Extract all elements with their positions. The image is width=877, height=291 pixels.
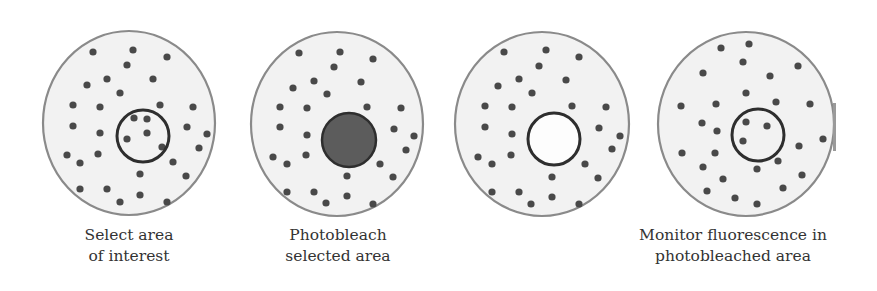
fluorescent-dot [310, 77, 317, 84]
panel-bleached-area [455, 32, 629, 216]
fluorescent-dot [123, 61, 130, 68]
cell-outline [43, 31, 215, 215]
fluorescent-dot [89, 48, 96, 55]
fluorescent-dot [515, 75, 522, 82]
fluorescent-dot [548, 193, 555, 200]
fluorescent-dot [397, 104, 404, 111]
fluorescent-dot [527, 200, 534, 207]
fluorescent-dot [323, 90, 330, 97]
fluorescent-dot [772, 98, 779, 105]
fluorescent-dot [103, 75, 110, 82]
fluorescent-dot [542, 46, 549, 53]
fluorescent-dot [745, 40, 752, 47]
fluorescent-dot [289, 84, 296, 91]
fluorescent-dot [508, 103, 515, 110]
fluorescent-dot [149, 75, 156, 82]
fluorescent-dot [742, 118, 749, 125]
panel-photobleach [251, 32, 423, 216]
fluorescent-dot [136, 170, 143, 177]
fluorescent-dot [508, 130, 515, 137]
fluorescent-dot [713, 127, 720, 134]
fluorescent-dot [310, 188, 317, 195]
fluorescent-dot [753, 200, 760, 207]
fluorescent-dot [123, 135, 130, 142]
fluorescent-dot [83, 81, 90, 88]
fluorescent-dot [96, 129, 103, 136]
fluorescent-dot [143, 115, 150, 122]
label-photobleach-line2: selected area [263, 246, 413, 267]
panel-monitor-fluorescence [658, 32, 834, 216]
fluorescent-dot [322, 199, 329, 206]
fluorescent-dot [594, 174, 601, 181]
edge-mark [833, 103, 836, 151]
fluorescent-dot [677, 102, 684, 109]
fluorescent-dot [63, 151, 70, 158]
fluorescent-dot [156, 101, 163, 108]
label-monitor-fluorescence: Monitor fluorescence in photobleached ar… [608, 225, 858, 267]
fluorescent-dot [143, 129, 150, 136]
fluorescent-dot [753, 165, 760, 172]
fluorescent-dot [488, 188, 495, 195]
fluorescent-dot [581, 160, 588, 167]
fluorescent-dot [302, 151, 309, 158]
fluorescent-dot [389, 173, 396, 180]
label-select-line1: Select area [59, 225, 199, 246]
fluorescent-dot [717, 44, 724, 51]
fluorescent-dot [283, 188, 290, 195]
fluorescent-dot [766, 72, 773, 79]
fluorescent-dot [500, 48, 507, 55]
fluorescent-dot [295, 49, 302, 56]
fluorescent-dot [390, 125, 397, 132]
fluorescent-dot [699, 163, 706, 170]
fluorescent-dot [183, 123, 190, 130]
fluorescent-dot [731, 194, 738, 201]
fluorescent-dot [739, 58, 746, 65]
fluorescent-dot [330, 63, 337, 70]
fluorescent-dot [410, 132, 417, 139]
fluorescent-dot [595, 124, 602, 131]
fluorescent-dot [575, 53, 582, 60]
fluorescent-dot [699, 69, 706, 76]
panel-select-area [43, 31, 215, 215]
fluorescent-dot [719, 175, 726, 182]
fluorescent-dot [602, 103, 609, 110]
fluorescent-dot [163, 198, 170, 205]
fluorescent-dot [303, 131, 310, 138]
fluorescent-dot [103, 185, 110, 192]
fluorescent-dot [69, 101, 76, 108]
fluorescent-dot [528, 89, 535, 96]
fluorescent-dot [742, 89, 749, 96]
fluorescent-dot [779, 184, 786, 191]
fluorescent-dot [488, 160, 495, 167]
fluorescent-dot [136, 191, 143, 198]
fluorescent-dot [369, 55, 376, 62]
fluorescent-dot [703, 187, 710, 194]
fluorescent-dot [474, 153, 481, 160]
fluorescent-dot [343, 192, 350, 199]
fluorescent-dot [698, 119, 705, 126]
fluorescent-dot [608, 145, 615, 152]
fluorescent-dot [203, 130, 210, 137]
fluorescent-dot [678, 149, 685, 156]
fluorescent-dot [130, 114, 137, 121]
fluorescent-dot [575, 200, 582, 207]
fluorescent-dot [376, 160, 383, 167]
fluorescent-dot [96, 103, 103, 110]
fluorescent-dot [169, 158, 176, 165]
label-photobleach: Photobleach selected area [263, 225, 413, 267]
fluorescent-dot [774, 157, 781, 164]
region-of-interest [528, 113, 580, 165]
fluorescent-dot [568, 102, 575, 109]
fluorescent-dot [343, 172, 350, 179]
fluorescent-dot [795, 142, 802, 149]
fluorescent-dot [129, 46, 136, 53]
fluorescent-dot [616, 132, 623, 139]
fluorescent-dot [163, 53, 170, 60]
fluorescent-dot [739, 137, 746, 144]
fluorescent-dot [283, 160, 290, 167]
fluorescent-dot [336, 48, 343, 55]
fluorescent-dot [535, 62, 542, 69]
fluorescent-dot [276, 103, 283, 110]
fluorescent-dot [195, 144, 202, 151]
fluorescent-dot [303, 104, 310, 111]
